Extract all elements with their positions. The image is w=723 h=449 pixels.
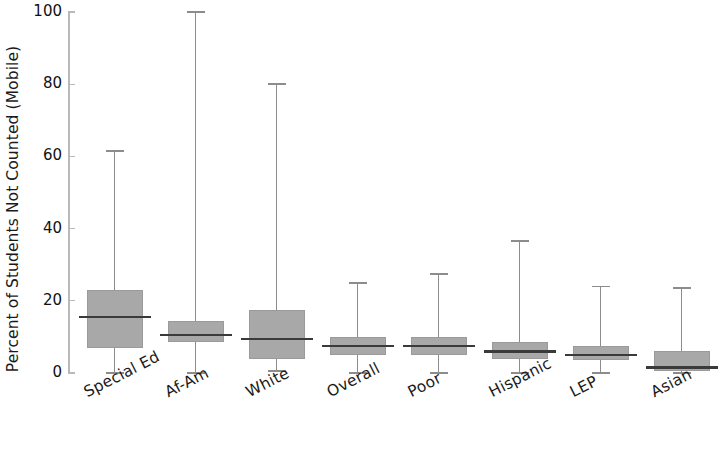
median-line	[79, 316, 151, 318]
y-axis-tick-label: 100	[20, 4, 62, 19]
box-plot-item	[654, 8, 710, 377]
y-axis-tick-label: 60	[20, 148, 62, 163]
median-line	[241, 338, 313, 340]
upper-whisker	[438, 274, 439, 337]
upper-whisker	[276, 84, 277, 310]
median-line	[403, 345, 475, 347]
box-plot-item	[330, 8, 386, 377]
box-plot-item	[411, 8, 467, 377]
upper-whisker-cap	[673, 287, 691, 289]
plot-area: 020406080100	[68, 8, 716, 377]
interquartile-box	[249, 310, 305, 359]
box-plot-item	[573, 8, 629, 377]
y-axis-title: Percent of Students Not Counted (Mobile)	[0, 14, 26, 404]
upper-whisker-cap	[349, 282, 367, 284]
box-plot-item	[168, 8, 224, 377]
upper-whisker	[357, 283, 358, 337]
upper-whisker-cap	[430, 273, 448, 275]
lower-whisker-cap	[592, 372, 610, 374]
y-axis-tick	[68, 372, 75, 373]
y-axis-tick-label: 40	[20, 221, 62, 236]
median-line	[322, 345, 394, 347]
upper-whisker-cap	[592, 286, 610, 288]
median-line	[565, 354, 637, 356]
y-axis-line	[68, 12, 70, 373]
y-axis-tick	[68, 84, 75, 85]
y-axis-tick	[68, 228, 75, 229]
y-axis-tick	[68, 156, 75, 157]
boxplot-figure: Percent of Students Not Counted (Mobile)…	[0, 0, 723, 449]
y-axis-tick-label: 0	[20, 365, 62, 380]
upper-whisker	[681, 288, 682, 351]
box-plot-item	[492, 8, 548, 377]
x-axis-tick-labels: Special EdAf-AmWhiteOverallPoorHispanicL…	[68, 377, 716, 449]
y-axis-tick-label: 80	[20, 76, 62, 91]
upper-whisker	[519, 241, 520, 342]
upper-whisker	[114, 151, 115, 290]
upper-whisker	[195, 12, 196, 321]
box-plot-item	[87, 8, 143, 377]
y-axis-tick-label: 20	[20, 293, 62, 308]
upper-whisker	[600, 286, 601, 346]
lower-whisker	[438, 355, 439, 373]
y-axis-tick	[68, 11, 75, 12]
interquartile-box	[168, 321, 224, 343]
upper-whisker-cap	[106, 150, 124, 152]
upper-whisker-cap	[268, 83, 286, 85]
x-axis-tick-label: LEP	[567, 372, 600, 401]
box-plot-item	[249, 8, 305, 377]
upper-whisker-cap	[511, 240, 529, 242]
median-line	[484, 350, 556, 352]
lower-whisker	[600, 360, 601, 373]
interquartile-box	[87, 290, 143, 348]
median-line	[160, 334, 232, 336]
y-axis-tick	[68, 300, 75, 301]
upper-whisker-cap	[187, 11, 205, 13]
